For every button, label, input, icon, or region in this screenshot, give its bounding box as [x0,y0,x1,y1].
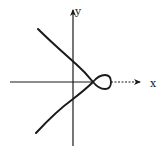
curve-upper-branch [38,29,93,82]
x-axis-label: x [150,77,157,90]
y-axis-label: y [74,5,82,18]
curve-loop [93,75,111,89]
node-point [92,81,94,83]
diagram-canvas: y x [0,0,166,147]
curve-lower-branch [36,82,93,133]
